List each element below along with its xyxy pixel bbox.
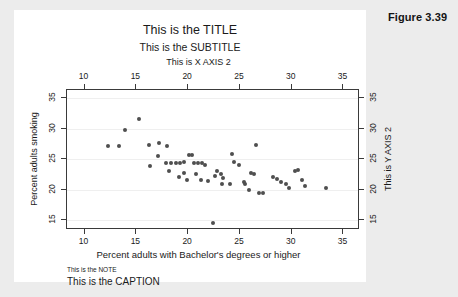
scatter-point: [261, 191, 265, 195]
chart-paper: This is the TITLE This is the SUBTITLE T…: [14, 10, 366, 282]
x-axis-tick-label: 25: [234, 71, 243, 81]
scatter-point: [194, 172, 198, 176]
x-axis-tick-label: 10: [79, 236, 88, 246]
scatter-point: [137, 117, 141, 121]
scatter-point: [257, 191, 261, 195]
y-axis-title: Percent adults smoking: [29, 112, 39, 206]
scatter-point: [117, 144, 121, 148]
scatter-point: [169, 161, 173, 165]
scatter-point: [247, 188, 251, 192]
y-axis-2-title: This is Y AXIS 2: [383, 127, 393, 191]
x-axis-tick-label: 20: [182, 236, 191, 246]
x-axis-2-title: This is X AXIS 2: [52, 57, 345, 67]
chart-caption: This is the CAPTION: [67, 276, 160, 287]
x-axis-tick: [84, 229, 85, 234]
scatter-point: [123, 128, 127, 132]
x-axis-tick-label: 15: [131, 71, 140, 81]
chart-title: This is the TITLE: [14, 23, 366, 37]
y-axis-tick: [359, 219, 364, 220]
gridline: [67, 159, 358, 160]
figure-number-label: Figure 3.39: [388, 11, 447, 23]
x-axis-tick-label: 20: [182, 71, 191, 81]
scatter-point: [164, 161, 168, 165]
scatter-point: [211, 221, 215, 225]
scatter-point: [206, 179, 210, 183]
y-axis-tick-label: 15: [47, 214, 57, 223]
scatter-point: [232, 160, 236, 164]
scatter-point: [230, 152, 234, 156]
y-axis-tick: [359, 189, 364, 190]
scatter-point: [220, 182, 224, 186]
scatter-point: [190, 153, 194, 157]
scatter-point: [147, 143, 151, 147]
scatter-point: [243, 182, 247, 186]
x-axis-tick: [135, 229, 136, 234]
scatter-point: [284, 182, 288, 186]
scatter-point: [185, 178, 189, 182]
scatter-point: [221, 176, 225, 180]
gridline: [67, 190, 358, 191]
scatter-point: [254, 143, 258, 147]
scatter-point: [300, 178, 304, 182]
scatter-point: [199, 178, 203, 182]
y-axis-tick-label: 15: [368, 214, 378, 223]
y-axis-tick-label: 20: [368, 184, 378, 193]
chart-note: This is the NOTE: [67, 266, 116, 273]
x-axis-tick: [291, 229, 292, 234]
gridline: [67, 98, 358, 99]
scatter-point: [213, 174, 217, 178]
x-axis-tick: [187, 229, 188, 234]
scatter-point: [237, 163, 241, 167]
x-axis-tick-label: 35: [338, 236, 347, 246]
x-axis-tick-label: 15: [131, 236, 140, 246]
scatter-point: [203, 163, 207, 167]
scatter-point: [287, 186, 291, 190]
scatter-point: [148, 164, 152, 168]
x-axis-tick-label: 30: [286, 71, 295, 81]
x-axis-tick: [342, 229, 343, 234]
x-axis-tick-label: 10: [79, 71, 88, 81]
chart-subtitle: This is the SUBTITLE: [14, 41, 366, 53]
scatter-point: [156, 154, 160, 158]
y-axis-tick-label: 30: [368, 123, 378, 132]
gridline: [67, 129, 358, 130]
y-axis-tick: [359, 128, 364, 129]
y-axis-tick-label: 30: [47, 123, 57, 132]
y-axis-tick-label: 20: [47, 184, 57, 193]
scatter-point: [228, 182, 232, 186]
scatter-point: [279, 180, 283, 184]
figure-root: Figure 3.39 This is the TITLE This is th…: [0, 0, 458, 297]
x-axis-tick-label: 25: [234, 236, 243, 246]
y-axis-tick: [359, 158, 364, 159]
y-axis-tick-label: 35: [368, 92, 378, 101]
scatter-point: [303, 184, 307, 188]
y-axis-tick-label: 25: [47, 153, 57, 162]
scatter-point: [157, 141, 161, 145]
x-axis-tick-label: 35: [338, 71, 347, 81]
plot-area: [66, 89, 359, 229]
scatter-point: [296, 168, 300, 172]
scatter-point: [182, 160, 186, 164]
x-axis-tick: [239, 229, 240, 234]
scatter-point: [177, 175, 181, 179]
scatter-point: [106, 144, 110, 148]
y-axis-tick-label: 25: [368, 153, 378, 162]
scatter-point: [252, 172, 256, 176]
y-axis-tick: [359, 97, 364, 98]
scatter-point: [165, 144, 169, 148]
x-axis-title: Percent adults with Bachelor's degrees o…: [52, 249, 345, 260]
x-axis-tick-label: 30: [286, 236, 295, 246]
scatter-point: [182, 171, 186, 175]
scatter-point: [167, 169, 171, 173]
y-axis-tick-label: 35: [47, 92, 57, 101]
